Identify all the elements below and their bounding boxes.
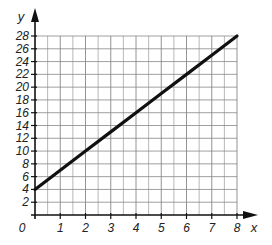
x-tick-label: 1	[57, 221, 64, 235]
y-tick-label: 2	[21, 195, 29, 209]
y-tick-label: 18	[16, 93, 30, 107]
x-tick-label: 3	[107, 221, 114, 235]
x-tick-label: 4	[133, 221, 140, 235]
y-tick-label: 14	[16, 119, 30, 133]
y-tick-label: 20	[15, 80, 30, 94]
x-tick-label: 5	[158, 221, 165, 235]
origin-label: 0	[19, 221, 26, 235]
y-tick-label: 24	[15, 55, 30, 69]
x-tick-label: 8	[234, 221, 241, 235]
y-tick-label: 8	[22, 157, 29, 171]
y-tick-label: 4	[22, 182, 29, 196]
x-tick-label: 2	[81, 221, 89, 235]
x-tick-label: 6	[183, 221, 190, 235]
y-tick-label: 6	[22, 170, 29, 184]
y-tick-label: 16	[16, 106, 30, 120]
y-axis-arrow-icon	[31, 8, 39, 22]
chart: 246810121416182022242628123456780yx	[0, 0, 272, 245]
x-axis-label: x	[250, 220, 258, 235]
y-tick-label: 26	[15, 42, 30, 56]
x-axis-arrow-icon	[243, 211, 258, 219]
y-axis-label: y	[17, 9, 26, 24]
y-tick-label: 22	[15, 67, 30, 81]
y-tick-label: 12	[16, 131, 30, 145]
y-tick-label: 10	[16, 144, 30, 158]
y-tick-label: 28	[15, 29, 30, 43]
x-tick-label: 7	[208, 221, 216, 235]
